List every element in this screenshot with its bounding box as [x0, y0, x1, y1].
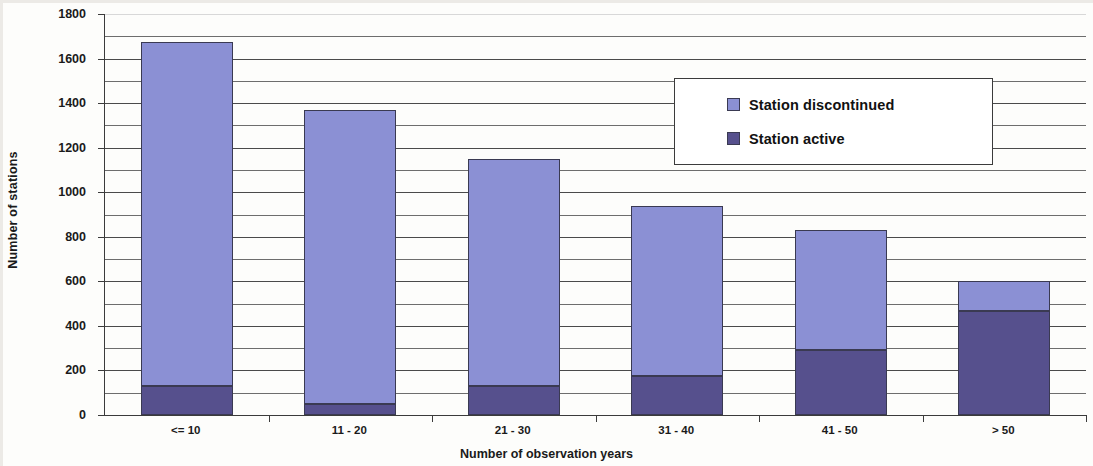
y-tick-600	[98, 281, 105, 282]
y-tick-400	[98, 326, 105, 327]
gridline-400	[105, 326, 1086, 327]
y-tick-label-1600: 1600	[58, 52, 86, 66]
y-tick-1600	[98, 59, 105, 60]
scan-artifact-top	[0, 0, 1093, 3]
x-tick-2	[432, 415, 433, 422]
y-tick-label-800: 800	[65, 230, 86, 244]
bar-segment-station-discontinued	[631, 206, 723, 376]
y-tick-label-400: 400	[65, 319, 86, 333]
x-tick-5	[923, 415, 924, 422]
chart-figure: Number of stations 020040060080010001200…	[0, 0, 1093, 466]
y-tick-1400	[98, 103, 105, 104]
y-tick-label-1400: 1400	[58, 96, 86, 110]
x-tick-4	[759, 415, 760, 422]
legend-label: Station discontinued	[749, 97, 894, 113]
x-tick-6	[1086, 415, 1087, 422]
y-tick-label-1200: 1200	[58, 141, 86, 155]
bar-3	[468, 159, 560, 415]
bar-segment-station-active	[795, 350, 887, 415]
y-tick-label-0: 0	[79, 408, 86, 422]
bar-2	[304, 110, 396, 415]
y-tick-800	[98, 237, 105, 238]
bar-segment-station-discontinued	[795, 230, 887, 350]
gridline-minor-500	[105, 304, 1086, 305]
gridline-200	[105, 370, 1086, 371]
y-axis-title: Number of stations	[0, 0, 26, 420]
bar-segment-station-discontinued	[141, 42, 233, 386]
legend-swatch-icon	[727, 98, 740, 111]
bar-segment-station-active	[468, 386, 560, 415]
x-tick-1	[269, 415, 270, 422]
gridline-minor-300	[105, 348, 1086, 349]
x-tick-label-5: 41 - 50	[822, 424, 858, 436]
bar-segment-station-discontinued	[958, 281, 1050, 311]
bar-segment-station-discontinued	[468, 159, 560, 386]
gridline-800	[105, 237, 1086, 238]
bar-6	[958, 281, 1050, 415]
y-axis-tick-labels: 020040060080010001200140016001800	[26, 0, 94, 430]
y-tick-label-200: 200	[65, 363, 86, 377]
gridline-minor-1100	[105, 170, 1086, 171]
gridline-1800	[105, 14, 1086, 15]
gridline-minor-700	[105, 259, 1086, 260]
gridline-1000	[105, 192, 1086, 193]
bar-4	[631, 206, 723, 415]
y-tick-200	[98, 370, 105, 371]
gridline-minor-900	[105, 215, 1086, 216]
x-tick-label-3: 21 - 30	[495, 424, 531, 436]
y-tick-1800	[98, 14, 105, 15]
legend-item-station-active: Station active	[727, 122, 992, 156]
x-tick-label-4: 31 - 40	[658, 424, 694, 436]
y-tick-label-1800: 1800	[58, 7, 86, 21]
x-tick-label-6: > 50	[992, 424, 1015, 436]
x-tick-label-2: 11 - 20	[332, 424, 367, 436]
gridline-600	[105, 281, 1086, 282]
bar-segment-station-discontinued	[304, 110, 396, 404]
gridline-minor-1700	[105, 36, 1086, 37]
y-tick-label-600: 600	[65, 274, 86, 288]
legend-item-station-discontinued: Station discontinued	[727, 88, 992, 122]
bar-1	[141, 42, 233, 415]
gridline-minor-100	[105, 393, 1086, 394]
legend-label: Station active	[749, 131, 845, 147]
x-axis-tick-labels: <= 1011 - 2021 - 3031 - 4041 - 50> 50	[104, 424, 1085, 444]
bar-segment-station-active	[958, 311, 1050, 415]
legend-swatch-icon	[727, 132, 740, 145]
bar-segment-station-active	[304, 404, 396, 415]
plot-area: Station discontinuedStation active	[104, 14, 1086, 416]
y-tick-label-1000: 1000	[58, 185, 86, 199]
x-tick-label-1: <= 10	[171, 424, 200, 436]
x-axis-title: Number of observation years	[0, 447, 1093, 461]
legend: Station discontinuedStation active	[674, 78, 993, 165]
bar-5	[795, 230, 887, 415]
gridline-1600	[105, 59, 1086, 60]
y-axis-title-text: Number of stations	[6, 151, 20, 269]
y-tick-1200	[98, 148, 105, 149]
y-tick-0	[98, 415, 105, 416]
bar-segment-station-active	[631, 376, 723, 415]
bar-segment-station-active	[141, 386, 233, 415]
y-tick-1000	[98, 192, 105, 193]
x-tick-3	[596, 415, 597, 422]
